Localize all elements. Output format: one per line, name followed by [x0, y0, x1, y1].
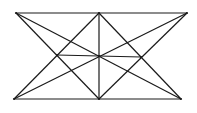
vertex-TM — [98, 12, 100, 14]
vertex-TR — [186, 12, 188, 14]
vertex-BR — [180, 98, 182, 100]
vertex-TL — [15, 12, 17, 14]
vertex-BM — [98, 98, 100, 100]
vertex-C — [98, 55, 100, 57]
vertex-BL — [13, 98, 15, 100]
vertex-L — [56, 54, 58, 56]
vertex-R — [140, 56, 142, 58]
geometry-diagram — [0, 0, 197, 113]
